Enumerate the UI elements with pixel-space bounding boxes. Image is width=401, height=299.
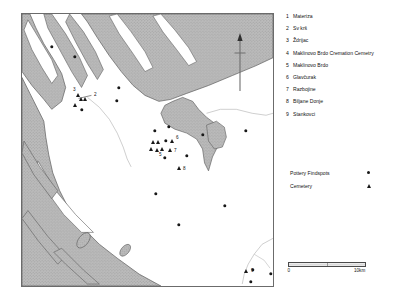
cemetery-marker[interactable] [168,148,172,152]
pottery-findspot-marker[interactable] [244,129,247,132]
legend-item-label: Stankovci [293,112,398,118]
scale-bar-track [288,262,366,267]
pottery-findspot-marker[interactable] [249,280,252,283]
legend-item[interactable]: 6 Glavčurak [286,75,398,81]
legend-item-label: Maklinovo Brdo Cremation Cemetry [293,51,398,57]
symbol-key: Pottery Findspots Cemetery [290,168,390,194]
legend-item-label: Maklinovo Brdo [293,63,398,69]
pottery-findspot-marker[interactable] [177,223,180,226]
pottery-findspot-marker[interactable] [185,154,188,157]
legend-item[interactable]: 4 Maklinovo Brdo Cremation Cemetry [286,51,398,57]
legend-item-number: 6 [286,75,293,81]
key-row-pottery-findspots: Pottery Findspots [290,168,390,181]
map-marker-number: 6 [176,136,179,141]
legend-item-number: 4 [286,51,293,57]
key-label-cemetery: Cemetery [290,183,312,189]
legend-item-label: Biljane Donje [293,99,398,105]
pottery-findspot-icon [367,171,370,174]
north-arrow-icon [233,33,247,91]
map-page: 3265789 1 Materiza 2 Sv krš 3 Ždrijac 4 … [0,0,401,299]
cemetery-marker[interactable] [177,166,181,170]
legend-item-number: 7 [286,87,293,93]
pottery-findspot-marker[interactable] [154,192,157,195]
scale-bar: 0 10km [288,262,386,267]
legend-item-number: 2 [286,26,293,32]
map-marker-number: 3 [73,88,76,93]
legend-item-number: 5 [286,63,293,69]
legend-item-number: 3 [286,38,293,44]
pottery-findspot-marker[interactable] [223,204,226,207]
pottery-findspot-marker[interactable] [201,133,204,136]
pottery-findspot-marker[interactable] [80,108,83,111]
legend-item-label: Materiza [293,14,398,20]
key-label-pottery-findspots: Pottery Findspots [290,170,330,176]
map-marker-number: 2 [94,93,97,98]
map-canvas[interactable]: 3265789 [21,13,274,287]
pottery-findspot-marker[interactable] [115,99,118,102]
legend-item[interactable]: 9 Stankovci [286,112,398,118]
cemetery-marker[interactable] [83,97,87,101]
legend-item-label: Sv krš [293,26,398,32]
cemetery-marker[interactable] [160,147,164,151]
scale-label-max: 10km [354,268,365,273]
legend-item[interactable]: 8 Biljane Donje [286,99,398,105]
map-marker-number: 5 [159,153,162,158]
cemetery-marker[interactable] [156,140,160,144]
legend-item-label: Razbojine [293,87,398,93]
scale-label-min: 0 [288,268,291,273]
cemetery-marker[interactable] [151,140,155,144]
pottery-findspot-marker[interactable] [251,268,254,271]
legend-item[interactable]: 1 Materiza [286,14,398,20]
legend-item-number: 1 [286,14,293,20]
legend-item-number: 9 [286,112,293,118]
legend-item[interactable]: 5 Maklinovo Brdo [286,63,398,69]
legend-item-label: Ždrijac [293,38,398,44]
cemetery-marker[interactable] [244,269,248,273]
legend-item[interactable]: 7 Razbojine [286,87,398,93]
cemetery-marker[interactable] [170,139,174,143]
site-legend-list: 1 Materiza 2 Sv krš 3 Ždrijac 4 Maklinov… [286,14,398,124]
cemetery-marker[interactable] [149,147,153,151]
legend-item-number: 8 [286,99,293,105]
pottery-findspot-marker[interactable] [117,86,120,89]
legend-item[interactable]: 2 Sv krš [286,26,398,32]
pottery-findspot-marker[interactable] [163,156,166,159]
pottery-findspot-marker[interactable] [73,55,76,58]
cemetery-marker[interactable] [73,103,77,107]
pottery-findspot-marker[interactable] [167,125,170,128]
key-row-cemetery: Cemetery [290,181,390,194]
pottery-findspot-marker[interactable] [50,45,53,48]
pottery-findspot-marker[interactable] [164,139,167,142]
pottery-findspot-marker[interactable] [153,129,156,132]
map-marker-number: 7 [174,149,177,154]
pottery-findspot-marker[interactable] [269,272,272,275]
legend-item[interactable]: 3 Ždrijac [286,38,398,44]
legend-item-label: Glavčurak [293,75,398,81]
map-marker-number: 8 [183,167,186,172]
cemetery-icon [367,184,371,188]
